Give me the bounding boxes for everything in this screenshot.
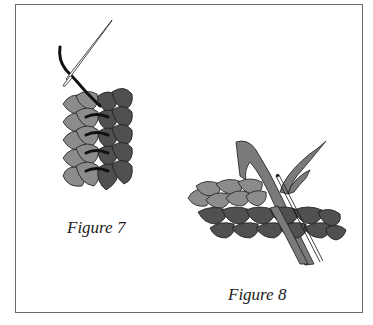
strands (236, 141, 326, 265)
figure-8-illustration (188, 141, 346, 265)
light-braid-8 (188, 179, 266, 208)
figure-7-illustration (60, 20, 133, 190)
light-braid (63, 91, 99, 186)
figure-8-caption: Figure 8 (228, 285, 286, 305)
figure-7-caption: Figure 7 (67, 218, 125, 238)
dark-braid (98, 88, 133, 190)
illustration (0, 0, 373, 325)
needle-icon (63, 20, 112, 86)
